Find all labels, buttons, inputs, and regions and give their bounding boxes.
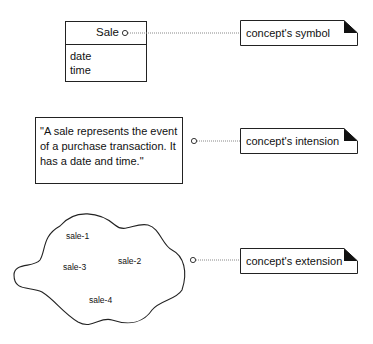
- class-attribute-time: time: [70, 63, 91, 77]
- intension-line-2: of a purchase transaction. It: [40, 139, 176, 155]
- anchor-circle-icon: [191, 138, 196, 143]
- connector-extension: [190, 257, 240, 262]
- class-attribute-date: date: [70, 49, 91, 63]
- intension-line-1: "A sale represents the event: [40, 124, 177, 140]
- anchor-circle-icon: [190, 257, 195, 262]
- connector-intension: [191, 138, 240, 143]
- note-label-intension: concept's intension: [246, 134, 339, 148]
- intension-line-3: has a date and time.": [40, 154, 144, 170]
- class-name: Sale: [96, 26, 119, 38]
- set-member-sale-1: sale-1: [66, 231, 89, 241]
- extension-cloud: [14, 214, 185, 325]
- note-label-symbol: concept's symbol: [246, 26, 330, 40]
- anchor-circle-icon: [122, 30, 127, 35]
- note-label-extension: concept's extension: [246, 254, 342, 268]
- set-member-sale-3: sale-3: [63, 262, 86, 272]
- diagram-canvas: [0, 0, 373, 344]
- set-member-sale-2: sale-2: [118, 256, 141, 266]
- set-member-sale-4: sale-4: [89, 295, 112, 305]
